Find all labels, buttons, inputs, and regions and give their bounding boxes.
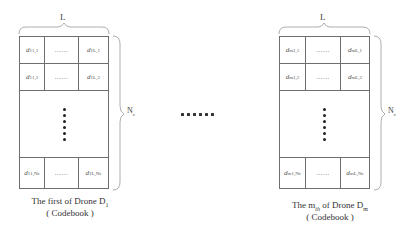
cell-sub: 1,Nc xyxy=(30,171,40,176)
cell-sub: 1,1 xyxy=(32,48,38,53)
rows-ellipsis-block xyxy=(279,90,370,158)
dot xyxy=(211,113,214,116)
cell-sub: L,1 xyxy=(93,48,100,53)
height-brace-left xyxy=(113,36,124,190)
width-brace-left xyxy=(19,23,109,34)
width-label-right: L xyxy=(320,12,326,22)
cell-sub: 1,2 xyxy=(32,75,38,80)
cell-ellipsis: ...... xyxy=(44,157,79,189)
height-brace-right xyxy=(374,36,385,190)
ellipsis-text: ...... xyxy=(55,169,69,177)
dot xyxy=(323,108,326,111)
ellipsis-text: ...... xyxy=(316,73,330,81)
dot xyxy=(63,132,66,135)
caption-sub: m xyxy=(363,206,368,212)
width-label-left: L xyxy=(60,12,66,22)
dot xyxy=(187,113,190,116)
cell-d-L-1: d1L,1 xyxy=(78,36,109,64)
caption-first-line1: The first of Drone D1 xyxy=(22,196,118,208)
cell-d-1-2: d11,2 xyxy=(19,63,45,91)
cell-d-1-Nc: dm1,Nc xyxy=(279,157,306,189)
dot xyxy=(63,114,66,117)
ellipsis-text: ...... xyxy=(55,46,69,54)
caption-mth-line1: The mth of Drone Dm xyxy=(272,200,388,212)
dot xyxy=(323,114,326,117)
caption-text: The first of Drone D xyxy=(32,196,106,206)
cell-ellipsis: ...... xyxy=(305,36,341,64)
dot xyxy=(181,113,184,116)
cell-ellipsis: ...... xyxy=(44,63,79,91)
ellipsis-text: ...... xyxy=(55,73,69,81)
cell-ellipsis: ...... xyxy=(305,63,341,91)
drones-ellipsis xyxy=(181,113,214,116)
vertical-dots xyxy=(63,108,66,141)
cell-sub: L,1 xyxy=(355,48,362,53)
dot xyxy=(63,126,66,129)
cell-d-1-1: dm1,1 xyxy=(279,36,306,64)
cell-d-1-Nc: d11,Nc xyxy=(19,157,45,189)
cell-d-L-Nc: d1L,Nc xyxy=(78,157,109,189)
cell-sub: L,Nc xyxy=(354,171,364,176)
cell-d-1-1: d11,1 xyxy=(19,36,45,64)
ellipsis-text: ...... xyxy=(316,46,330,54)
cell-d-L-Nc: dmL,Nc xyxy=(340,157,370,189)
dot xyxy=(199,113,202,116)
dot xyxy=(205,113,208,116)
cell-sub: 1,2 xyxy=(293,75,299,80)
cell-d-L-2: d1L,2 xyxy=(78,63,109,91)
cell-sub: L,2 xyxy=(93,75,100,80)
caption-text: The m xyxy=(292,200,315,210)
cell-sub: L,2 xyxy=(355,75,362,80)
height-label-sub: c xyxy=(394,112,396,117)
caption-mth-line2: ( Codebook ) xyxy=(272,212,388,222)
vertical-dots xyxy=(323,108,326,141)
width-brace-right xyxy=(279,23,370,34)
cell-sub: 1,1 xyxy=(293,48,299,53)
cell-d-L-2: dmL,2 xyxy=(340,63,370,91)
ellipsis-text: ...... xyxy=(316,169,330,177)
cell-sub: 1,Nc xyxy=(291,171,301,176)
caption-first-line2: ( Codebook ) xyxy=(22,208,118,218)
cell-d-L-1: dmL,1 xyxy=(340,36,370,64)
dot xyxy=(63,138,66,141)
cell-ellipsis: ...... xyxy=(44,36,79,64)
dot xyxy=(323,126,326,129)
dot xyxy=(323,138,326,141)
height-label-sub: c xyxy=(133,112,135,117)
dot xyxy=(193,113,196,116)
caption-sub: 1 xyxy=(105,202,108,208)
rows-ellipsis-block xyxy=(19,90,109,158)
dot xyxy=(63,120,66,123)
dot xyxy=(323,120,326,123)
dot xyxy=(323,132,326,135)
cell-sub: L,Nc xyxy=(91,171,101,176)
height-label-left: Nc xyxy=(127,106,135,117)
height-label-right: Nc xyxy=(388,106,396,117)
cell-d-1-2: dm1,2 xyxy=(279,63,306,91)
caption-text: of Drone D xyxy=(320,200,363,210)
cell-ellipsis: ...... xyxy=(305,157,341,189)
dot xyxy=(63,108,66,111)
